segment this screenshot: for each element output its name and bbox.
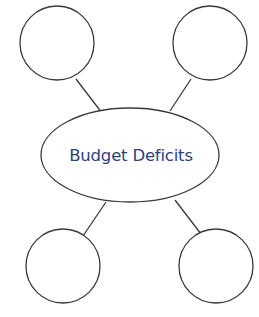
connector-top-right xyxy=(170,79,191,111)
connector-bottom-left xyxy=(83,202,106,236)
satellite-circle-top-left[interactable] xyxy=(20,6,94,80)
center-label: Budget Deficits xyxy=(69,146,193,165)
connector-top-left xyxy=(76,79,102,113)
connector-bottom-right xyxy=(175,200,201,234)
satellite-circle-top-right[interactable] xyxy=(173,6,247,80)
satellite-circle-bottom-left[interactable] xyxy=(26,229,100,303)
concept-web-diagram: Budget Deficits xyxy=(0,0,259,317)
satellite-circle-bottom-right[interactable] xyxy=(179,229,253,303)
